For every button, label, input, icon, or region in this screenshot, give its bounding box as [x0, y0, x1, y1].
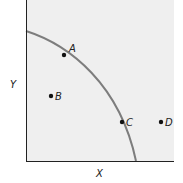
ppf-chart: A B C D Y X [0, 0, 183, 183]
point-b-label: B [55, 91, 62, 102]
point-a-label: A [68, 43, 76, 54]
y-axis-label: Y [10, 79, 17, 90]
point-b [49, 94, 53, 98]
point-c-label: C [126, 117, 133, 128]
point-d [159, 120, 163, 124]
point-c [120, 120, 124, 124]
x-axis-label: X [95, 168, 104, 179]
point-d-label: D [165, 117, 173, 128]
plot-area [26, 0, 174, 161]
point-a [62, 53, 66, 57]
